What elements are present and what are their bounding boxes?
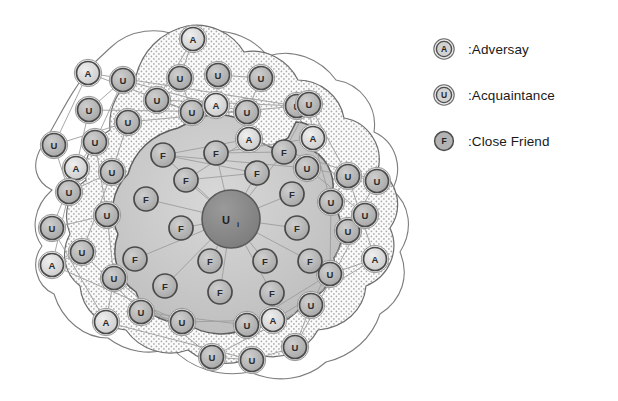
svg-text:A: A xyxy=(441,44,447,54)
network-node-f[interactable]: F xyxy=(272,140,296,164)
close-friend-icon: F xyxy=(432,129,456,153)
node-circle xyxy=(130,301,153,324)
network-node-u[interactable]: U xyxy=(297,291,324,318)
network-node-f[interactable]: F xyxy=(123,247,147,271)
legend: A :Adversay U :Acquaintance F :Close Fri… xyxy=(432,26,610,164)
node-circle xyxy=(298,93,321,116)
node-circle xyxy=(134,187,158,211)
network-node-a[interactable]: A xyxy=(202,91,229,118)
network-node-u[interactable]: U xyxy=(93,201,120,228)
network-node-u[interactable]: U xyxy=(317,188,344,215)
network-node-u[interactable]: U xyxy=(143,86,170,113)
node-circle xyxy=(253,249,277,273)
node-circle xyxy=(280,182,304,206)
network-node-f[interactable]: F xyxy=(285,216,309,240)
node-circle xyxy=(182,28,205,51)
network-node-u[interactable]: U xyxy=(363,167,390,194)
node-circle xyxy=(262,309,285,332)
node-circle xyxy=(198,249,222,273)
node-circle xyxy=(207,64,230,87)
network-node-a[interactable]: A xyxy=(235,125,262,152)
node-circle xyxy=(364,248,387,271)
node-circle xyxy=(208,280,232,304)
network-node-f[interactable]: F xyxy=(208,280,232,304)
node-circle xyxy=(337,165,360,188)
network-node-u[interactable]: U xyxy=(233,98,260,125)
network-node-f[interactable]: F xyxy=(253,249,277,273)
figure-root: U i AUUUUUAUUAUUUUUAUUUUUAUAUUUUUAUUUAUU… xyxy=(0,0,618,401)
network-node-u[interactable]: U xyxy=(178,98,205,125)
node-circle xyxy=(181,101,204,124)
node-circle xyxy=(245,161,269,185)
network-node-f[interactable]: F xyxy=(204,141,228,165)
network-node-u[interactable]: U xyxy=(233,311,260,338)
node-circle xyxy=(236,101,259,124)
node-circle xyxy=(284,336,307,359)
network-node-u[interactable]: U xyxy=(100,264,127,291)
network-node-u[interactable]: U xyxy=(351,201,378,228)
network-node-a[interactable]: A xyxy=(92,308,119,335)
network-node-u[interactable]: U xyxy=(55,178,82,205)
network-node-f[interactable]: F xyxy=(260,281,284,305)
node-circle xyxy=(171,311,194,334)
network-node-a[interactable]: A xyxy=(74,59,101,86)
network-node-f[interactable]: F xyxy=(134,187,158,211)
acquaintance-icon: U xyxy=(432,83,456,107)
network-node-a[interactable]: A xyxy=(299,124,326,151)
node-circle xyxy=(296,157,319,180)
network-node-f[interactable]: F xyxy=(169,216,193,240)
center-user-node[interactable]: U i xyxy=(202,190,260,248)
network-node-f[interactable]: F xyxy=(151,143,175,167)
network-node-u[interactable]: U xyxy=(81,128,108,155)
network-node-a[interactable]: A xyxy=(38,251,65,278)
network-node-a[interactable]: A xyxy=(361,245,388,272)
network-node-u[interactable]: U xyxy=(198,343,225,370)
node-circle xyxy=(201,346,224,369)
network-node-f[interactable]: F xyxy=(198,249,222,273)
node-circle xyxy=(319,263,342,286)
network-node-f[interactable]: F xyxy=(174,168,198,192)
node-circle xyxy=(78,99,101,122)
network-node-f[interactable]: F xyxy=(245,161,269,185)
node-circle xyxy=(65,157,88,180)
network-node-u[interactable]: U xyxy=(75,96,102,123)
network-node-f[interactable]: F xyxy=(280,182,304,206)
node-circle xyxy=(103,267,126,290)
network-node-u[interactable]: U xyxy=(114,108,141,135)
network-node-u[interactable]: U xyxy=(238,346,265,373)
network-node-u[interactable]: U xyxy=(68,238,95,265)
network-node-u[interactable]: U xyxy=(247,64,274,91)
node-circle xyxy=(300,294,323,317)
network-node-u[interactable]: U xyxy=(204,61,231,88)
node-circle xyxy=(169,216,193,240)
node-circle xyxy=(260,281,284,305)
network-node-a[interactable]: A xyxy=(62,154,89,181)
network-node-u[interactable]: U xyxy=(98,158,125,185)
network-node-u[interactable]: U xyxy=(127,298,154,325)
network-node-f[interactable]: F xyxy=(153,274,177,298)
network-node-u[interactable]: U xyxy=(281,333,308,360)
node-circle xyxy=(241,349,264,372)
network-node-u[interactable]: U xyxy=(168,308,195,335)
network-node-a[interactable]: A xyxy=(259,306,286,333)
node-circle xyxy=(236,314,259,337)
legend-item-acquaintance: U :Acquaintance xyxy=(432,72,610,118)
network-node-u[interactable]: U xyxy=(38,214,65,241)
network-node-u[interactable]: U xyxy=(295,90,322,117)
network-node-u[interactable]: U xyxy=(166,64,193,91)
node-circle xyxy=(112,69,135,92)
network-node-u[interactable]: U xyxy=(109,66,136,93)
legend-label-acquaintance: :Acquaintance xyxy=(468,88,555,103)
node-circle xyxy=(272,140,296,164)
network-node-f[interactable]: F xyxy=(298,249,322,273)
svg-text:F: F xyxy=(441,136,446,146)
node-circle xyxy=(146,89,169,112)
node-circle xyxy=(41,254,64,277)
network-node-u[interactable]: U xyxy=(293,154,320,181)
node-circle xyxy=(354,204,377,227)
network-node-u[interactable]: U xyxy=(334,162,361,189)
network-node-u[interactable]: U xyxy=(40,131,67,158)
node-circle xyxy=(169,67,192,90)
network-node-a[interactable]: A xyxy=(179,25,206,52)
legend-item-close-friend: F :Close Friend xyxy=(432,118,610,164)
